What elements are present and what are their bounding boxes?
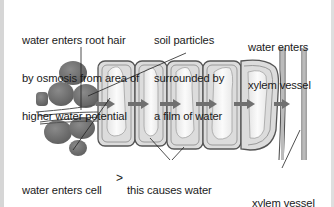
label-soil-particles: soil particles surrounded by a film of w… (154, 9, 224, 135)
connector-symbol: > (116, 171, 123, 185)
label-root-hair-entry: water enters root hair by osmosis from a… (22, 9, 139, 135)
label-cell-to-cell: this causes water to move from cell to c… (127, 159, 214, 207)
label-xylem-vessel: xylem vessel (252, 172, 315, 207)
label-xylem-entry: water enters xylem vessel (248, 16, 311, 104)
label-cell-entry: water enters cell and increases its wate… (22, 159, 107, 207)
